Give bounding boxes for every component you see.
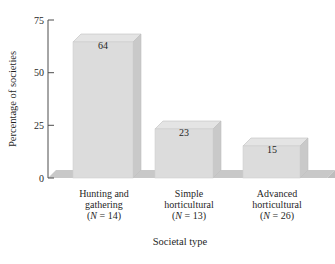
category-label-line2-advanced-horticultural: horticultural [252, 199, 302, 210]
y-tick-label-0: 0 [39, 173, 44, 184]
bar-chart-figure: 15 23 64 75 50 25 0 Per [0, 0, 335, 264]
bar-group-hunting-and-gathering: 64 [73, 34, 141, 178]
bar-front-face [73, 42, 133, 178]
y-tick-label-75: 75 [34, 15, 44, 26]
y-axis: 75 50 25 0 [34, 15, 54, 184]
x-axis-category-labels: Hunting and gathering (N = 14) Simple ho… [79, 188, 302, 222]
y-tick-label-25: 25 [34, 120, 44, 131]
y-tick-label-50: 50 [34, 67, 44, 78]
bar-value-label-advanced-horticultural: 15 [267, 144, 277, 155]
bar-value-label-hunting-and-gathering: 64 [98, 40, 108, 51]
category-n-hunting-and-gathering: (N = 14) [87, 210, 121, 222]
chart-canvas: 15 23 64 75 50 25 0 Per [0, 0, 335, 264]
y-axis-title: Percentage of societies [7, 51, 18, 147]
category-label-line2-simple-horticultural: horticultural [164, 199, 214, 210]
bar-value-label-simple-horticultural: 23 [179, 127, 189, 138]
category-label-line2-hunting-and-gathering: gathering [85, 199, 123, 210]
category-n-simple-horticultural: (N = 13) [172, 210, 206, 222]
bar-group-advanced-horticultural: 15 [243, 138, 308, 178]
bar-group-simple-horticultural: 23 [155, 121, 221, 178]
category-label-line1-simple-horticultural: Simple [175, 188, 204, 199]
x-axis-title: Societal type [153, 236, 208, 247]
category-n-advanced-horticultural: (N = 26) [260, 210, 294, 222]
category-label-line1-hunting-and-gathering: Hunting and [79, 188, 129, 199]
category-label-line1-advanced-horticultural: Advanced [257, 188, 298, 199]
bar-side-face [133, 34, 141, 178]
bar-side-face [213, 121, 221, 178]
